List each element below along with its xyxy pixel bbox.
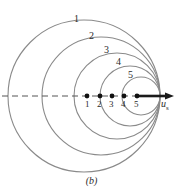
doppler-wavefront-diagram — [0, 0, 183, 192]
source-dot-1 — [85, 94, 90, 99]
wavefront-label-2: 2 — [89, 31, 94, 41]
source-dot-2 — [98, 94, 103, 99]
source-dot-5 — [135, 94, 140, 99]
wavefront-label-3: 3 — [104, 45, 109, 55]
source-dot-4 — [122, 94, 127, 99]
source-position-label-2: 2 — [97, 100, 102, 109]
source-position-label-5: 5 — [134, 100, 139, 109]
source-velocity-subscript: s — [166, 104, 169, 112]
wavefront-label-1: 1 — [74, 14, 79, 24]
source-dot-3 — [110, 94, 115, 99]
wavefront-label-4: 4 — [116, 57, 121, 67]
wavefront-label-5: 5 — [128, 70, 133, 80]
source-position-label-3: 3 — [109, 100, 114, 109]
source-position-label-4: 4 — [121, 100, 126, 109]
source-position-label-1: 1 — [85, 100, 90, 109]
figure-caption: (b) — [0, 176, 183, 186]
source-velocity-label: us — [161, 99, 169, 112]
